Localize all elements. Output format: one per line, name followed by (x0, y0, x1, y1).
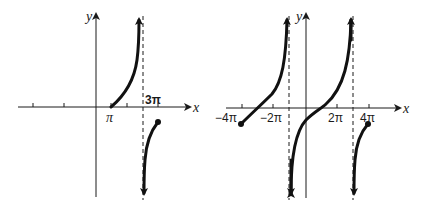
right-left-endpoint-dot (238, 121, 244, 127)
left-tick-label-3pi: 3π (145, 93, 161, 107)
right-x-label: x (402, 101, 410, 116)
right-y-label: y (294, 9, 303, 24)
left-x-label: x (192, 100, 200, 115)
graphs-svg: y x π 3π (0, 0, 423, 211)
right-tick-label-neg-2pi: −2π (260, 111, 282, 125)
right-graph: y x −4π −2π 2π 4π (215, 9, 410, 200)
left-tick-label-pi: π (106, 110, 114, 125)
left-branch-lower (144, 122, 158, 193)
left-branch-upper (111, 20, 139, 107)
left-graph: y x π 3π (18, 9, 200, 200)
right-tick-label-2pi: 2π (328, 111, 343, 125)
right-branch-middle (291, 20, 351, 193)
right-tick-label-4pi: 4π (360, 111, 375, 125)
left-endpoint-dot (155, 119, 161, 125)
right-tick-label-neg-4pi: −4π (215, 111, 237, 125)
right-branch-right (354, 124, 368, 193)
left-y-label: y (84, 9, 93, 24)
figure: y x π 3π (0, 0, 423, 211)
